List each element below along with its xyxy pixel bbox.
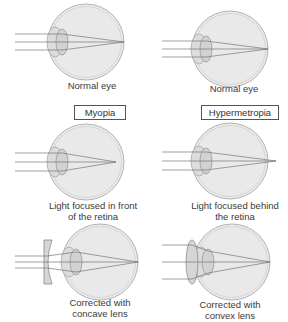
- caption-normal-eye-left: Normal eye: [50, 80, 134, 91]
- caption-convex-line2: convex lens: [178, 310, 282, 321]
- caption-concave-correction: Corrected with concave lens: [48, 297, 152, 319]
- eye-diagrams: [0, 0, 288, 322]
- caption-hypermetropia-line2: the retina: [180, 211, 288, 222]
- caption-concave-line2: concave lens: [48, 308, 152, 319]
- normal-eye-left: [15, 4, 124, 80]
- heading-hypermetropia: Hypermetropia: [201, 105, 279, 120]
- caption-normal-eye-right: Normal eye: [192, 83, 276, 94]
- corrected-hypermetropia-eye: [162, 224, 270, 300]
- caption-myopia-line1: Light focused in front: [38, 200, 148, 211]
- hypermetropia-eye: [162, 123, 276, 199]
- caption-hypermetropia-line1: Light focused behind: [180, 200, 288, 211]
- caption-hypermetropia-defect: Light focused behind the retina: [180, 200, 288, 222]
- myopia-eye: [15, 124, 124, 200]
- corrected-myopia-eye: [15, 224, 138, 300]
- heading-myopia: Myopia: [74, 105, 126, 120]
- caption-convex-line1: Corrected with: [178, 299, 282, 310]
- normal-eye-right: [162, 11, 268, 87]
- caption-myopia-defect: Light focused in front of the retina: [38, 200, 148, 222]
- caption-concave-line1: Corrected with: [48, 297, 152, 308]
- caption-myopia-line2: of the retina: [38, 211, 148, 222]
- caption-convex-correction: Corrected with convex lens: [178, 299, 282, 321]
